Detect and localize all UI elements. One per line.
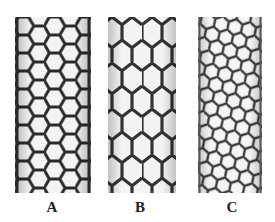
panel-label-c: C — [212, 199, 252, 216]
nanotube-b-zigzag — [108, 17, 176, 193]
panel-label-a: A — [32, 199, 72, 216]
nanotube-c-chiral — [198, 17, 262, 193]
panel-label-b: B — [120, 199, 160, 216]
nanotube-a-armchair — [15, 17, 91, 193]
